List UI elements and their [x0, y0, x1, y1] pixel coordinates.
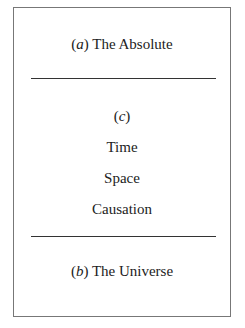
universe-text: The Universe — [92, 263, 173, 279]
bottom-divider — [31, 236, 216, 237]
space-label: Space — [13, 169, 231, 187]
absolute-text: The Absolute — [92, 36, 172, 52]
middle-marker: (c) — [13, 107, 231, 125]
time-label: Time — [13, 138, 231, 156]
absolute-label: (a) The Absolute — [13, 35, 231, 53]
marker-a: a — [76, 36, 84, 52]
universe-label: (b) The Universe — [13, 262, 231, 280]
causation-label: Causation — [13, 200, 231, 218]
marker-c: c — [119, 108, 126, 124]
marker-b: b — [76, 263, 84, 279]
top-divider — [31, 78, 216, 79]
